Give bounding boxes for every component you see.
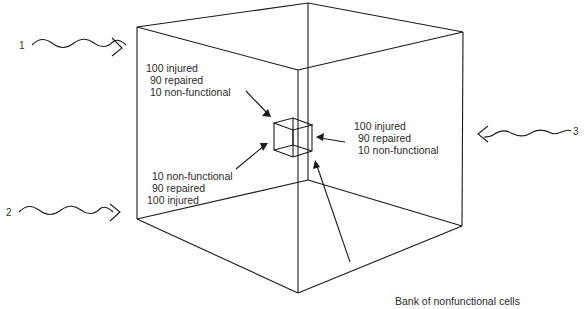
small-cube (274, 118, 312, 157)
annotation-line: 100 injured (354, 120, 439, 132)
annotation-bottom-left: 10 non-functional 90 repaired 100 injure… (152, 170, 233, 206)
wave-2 (19, 206, 113, 214)
cube-diagram (0, 0, 587, 309)
wave-3 (484, 130, 571, 137)
annotation-line: 90 repaired (146, 74, 231, 86)
annotation-line: 90 repaired (354, 132, 439, 144)
wave-1 (32, 39, 126, 47)
annotation-top-left: 100 injured 90 repaired 10 non-functiona… (146, 62, 231, 98)
source-label-3: 3 (573, 126, 579, 137)
callout-bank-label: Bank of nonfunctional cells (395, 295, 520, 307)
annotation-line: 100 injured (146, 62, 231, 74)
source-label-2: 2 (6, 207, 12, 218)
big-cube-top-edges (137, 3, 463, 32)
annotation-line: 10 non-functional (146, 86, 231, 98)
annotation-line: 90 repaired (152, 182, 233, 194)
annotation-right: 100 injured 90 repaired 10 non-functiona… (354, 120, 439, 156)
annotation-line: 10 non-functional (354, 144, 439, 156)
annotation-line: 10 non-functional (152, 170, 233, 182)
annotation-line: 100 injured (147, 194, 233, 206)
source-label-1: 1 (19, 40, 25, 51)
